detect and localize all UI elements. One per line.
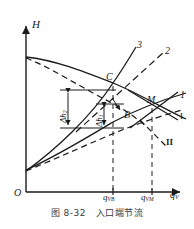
figure-inlet-throttling: H O qV qVB qVM C B M 3 2 1 I II Δh2 Δh1 … bbox=[0, 0, 194, 229]
figure-caption-title: 入口端节流 bbox=[96, 208, 144, 218]
axis-label-y: H bbox=[32, 19, 40, 30]
curve-label-1: 1 bbox=[180, 90, 185, 100]
curve-label-2: 2 bbox=[165, 46, 170, 56]
dimension-label-delta-h2-sub: 2 bbox=[62, 110, 68, 113]
dimension-label-delta-h1-sub: 1 bbox=[98, 114, 104, 117]
tick-label-qVM: qVM bbox=[141, 193, 154, 203]
pump-head-curve-normal bbox=[26, 57, 186, 119]
point-label-M: M bbox=[147, 95, 155, 105]
curve-label-I: I bbox=[180, 112, 183, 121]
dimension-label-delta-h1: Δh1 bbox=[95, 114, 105, 127]
figure-caption: 图 8-32入口端节流 bbox=[0, 206, 194, 219]
curve-II-segment bbox=[140, 120, 168, 148]
figure-caption-number: 图 8-32 bbox=[51, 208, 86, 218]
dimension-label-delta-h1-base: Δh bbox=[94, 117, 104, 127]
point-label-B: B bbox=[124, 110, 130, 120]
axis-label-x: qV bbox=[170, 190, 179, 201]
tick-label-qVB: qVB bbox=[103, 193, 114, 203]
tick-label-qVM-sub: VM bbox=[146, 196, 154, 202]
tick-label-qVB-sub: VB bbox=[108, 196, 115, 202]
curve-label-3: 3 bbox=[137, 40, 142, 50]
point-label-C: C bbox=[106, 72, 113, 82]
axis-origin-label: O bbox=[14, 188, 21, 198]
dimension-label-delta-h2-base: Δh bbox=[58, 113, 68, 123]
axis-label-x-sub: V bbox=[175, 193, 179, 200]
dimension-label-delta-h2: Δh2 bbox=[59, 110, 69, 123]
curve-label-II: II bbox=[166, 138, 173, 147]
